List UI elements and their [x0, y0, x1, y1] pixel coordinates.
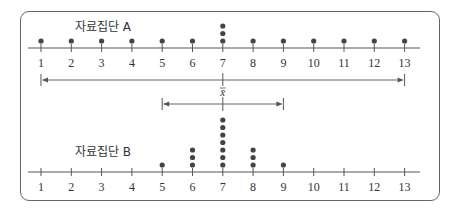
- tick-label: 1: [38, 180, 44, 194]
- data-dot: [220, 147, 225, 152]
- tick-label: 10: [308, 56, 320, 70]
- tick-label: 8: [250, 56, 256, 70]
- data-dot: [220, 140, 225, 145]
- data-dot: [220, 38, 225, 43]
- data-dot: [251, 38, 256, 43]
- set-b-label: 자료집단 B: [75, 145, 131, 159]
- tick-label: 5: [159, 180, 165, 194]
- set-a-label: 자료집단 A: [75, 20, 132, 34]
- data-dot: [311, 38, 316, 43]
- data-dot: [220, 23, 225, 28]
- data-dot: [281, 38, 286, 43]
- data-dot: [220, 132, 225, 137]
- data-dot: [402, 38, 407, 43]
- data-dot: [220, 162, 225, 167]
- tick-label: 8: [250, 180, 256, 194]
- dot-plot-figure: 자료집단 A 12345678910111213 x̄ 자료집단 B 12345…: [0, 0, 456, 213]
- tick-label: 5: [159, 56, 165, 70]
- data-dot: [341, 38, 346, 43]
- data-dot: [160, 162, 165, 167]
- tick-label: 2: [68, 56, 74, 70]
- tick-label: 7: [220, 180, 226, 194]
- tick-label: 3: [99, 56, 105, 70]
- tick-label: 3: [99, 180, 105, 194]
- data-dot: [281, 162, 286, 167]
- tick-label: 12: [368, 180, 380, 194]
- tick-label: 6: [190, 56, 196, 70]
- data-dot: [129, 38, 134, 43]
- tick-label: 4: [129, 180, 135, 194]
- tick-label: 13: [399, 56, 411, 70]
- data-dot: [251, 155, 256, 160]
- tick-label: 11: [338, 180, 350, 194]
- tick-label: 1: [38, 56, 44, 70]
- data-dot: [220, 31, 225, 36]
- set-a-axis: 12345678910111213: [28, 44, 420, 70]
- set-b-axis: 12345678910111213: [28, 168, 420, 194]
- set-b-dots: [160, 117, 286, 167]
- mean-marker: x̄: [219, 73, 225, 111]
- data-dot: [190, 155, 195, 160]
- data-dot: [69, 38, 74, 43]
- data-dot: [190, 38, 195, 43]
- data-dot: [220, 117, 225, 122]
- data-dot: [220, 125, 225, 130]
- tick-label: 10: [308, 180, 320, 194]
- tick-label: 13: [399, 180, 411, 194]
- tick-label: 7: [220, 56, 226, 70]
- data-dot: [38, 38, 43, 43]
- data-dot: [220, 155, 225, 160]
- tick-label: 4: [129, 56, 135, 70]
- data-dot: [251, 147, 256, 152]
- data-dot: [190, 147, 195, 152]
- data-dot: [99, 38, 104, 43]
- tick-label: 11: [338, 56, 350, 70]
- tick-label: 9: [280, 56, 286, 70]
- tick-label: 9: [280, 180, 286, 194]
- data-dot: [372, 38, 377, 43]
- tick-label: 6: [190, 180, 196, 194]
- data-dot: [190, 162, 195, 167]
- data-dot: [160, 38, 165, 43]
- data-dot: [251, 162, 256, 167]
- tick-label: 2: [68, 180, 74, 194]
- tick-label: 12: [368, 56, 380, 70]
